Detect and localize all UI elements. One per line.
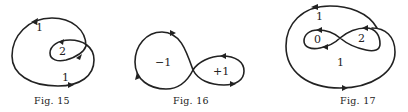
fig17-label-right-lobe: 2 — [358, 32, 365, 45]
fig15-label-outer-bottom: 1 — [62, 71, 69, 84]
fig17-label-outer-bottom: 1 — [337, 56, 344, 69]
figure-17: 1 0 2 1 Fig. 17 — [286, 4, 395, 106]
fig17-label-outer-top: 1 — [316, 10, 323, 23]
fig15-caption: Fig. 15 — [34, 95, 70, 106]
figure-15: 1 2 1 Fig. 15 — [12, 18, 94, 106]
winding-number-figures: 1 2 1 Fig. 15 −1 +1 Fig. 16 1 0 2 1 Fig.… — [0, 0, 408, 112]
figure-16: −1 +1 Fig. 16 — [135, 30, 244, 106]
fig16-label-left-lobe: −1 — [155, 56, 171, 69]
arrow-icon — [230, 81, 236, 87]
arrow-icon — [362, 25, 368, 31]
fig15-label-inner: 2 — [59, 45, 66, 58]
fig16-caption: Fig. 16 — [173, 95, 209, 106]
fig17-caption: Fig. 17 — [340, 95, 376, 106]
fig17-label-left-lobe: 0 — [314, 33, 321, 46]
arrow-icon — [322, 44, 328, 50]
fig16-label-right-lobe: +1 — [213, 65, 229, 78]
fig15-curve — [12, 18, 94, 86]
fig16-curve — [135, 32, 244, 89]
arrow-icon — [220, 53, 226, 59]
fig15-label-outer-top: 1 — [36, 21, 43, 34]
arrow-icon — [342, 85, 348, 91]
